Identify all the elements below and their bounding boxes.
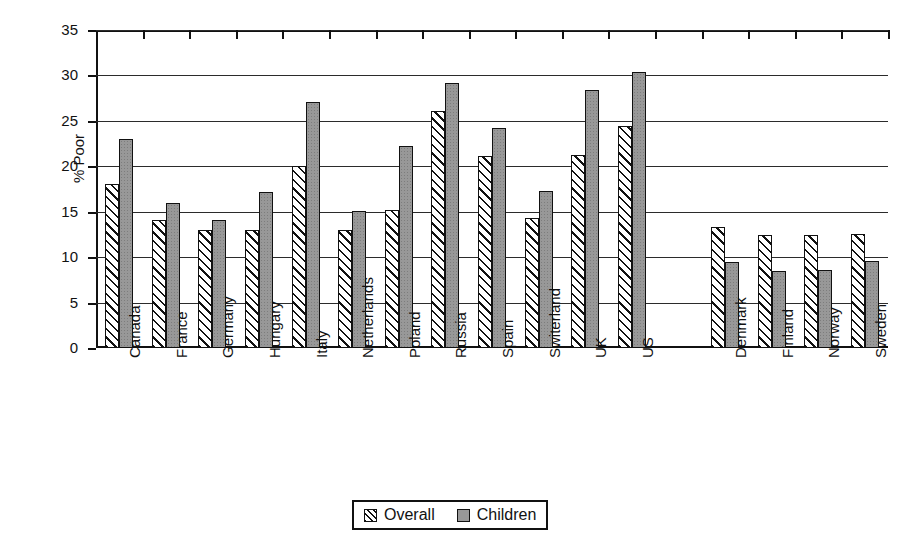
bar-overall	[571, 155, 585, 348]
y-axis-tick	[88, 166, 96, 168]
x-axis-tick-label: Poland	[406, 311, 423, 358]
y-axis-tick-label: 0	[18, 340, 78, 355]
gridline	[96, 30, 888, 31]
y-axis-tick-label: 10	[18, 249, 78, 264]
bar-overall	[245, 230, 259, 348]
x-axis-tick	[422, 30, 424, 39]
bar-overall	[338, 230, 352, 348]
x-axis-tick	[888, 30, 890, 39]
x-axis-tick-label: UK	[592, 337, 609, 358]
gridline	[96, 75, 888, 76]
y-axis-tick	[88, 212, 96, 214]
chart-legend: Overall Children	[352, 500, 548, 530]
bar-overall	[198, 230, 212, 348]
x-axis-tick-label: Russia	[452, 312, 469, 358]
hatched-swatch-icon	[364, 509, 377, 522]
x-axis-tick-label: US	[639, 337, 656, 358]
x-axis-tick-label: Denmark	[732, 297, 749, 358]
bar-children	[492, 128, 506, 348]
x-axis-tick	[282, 30, 284, 39]
x-axis-tick-labels: CanadaFranceGermanyHungaryItalyNetherlan…	[96, 358, 888, 508]
y-axis-tick-label: 30	[18, 67, 78, 82]
x-axis-tick	[702, 30, 704, 39]
y-axis-tick	[88, 30, 96, 32]
legend-item-children: Children	[457, 506, 537, 524]
bar-overall	[804, 235, 818, 348]
x-axis-tick-label: Hungary	[266, 301, 283, 358]
x-axis-tick-label: Netherlands	[359, 277, 376, 358]
bar-overall	[758, 235, 772, 348]
bar-overall	[618, 126, 632, 348]
x-axis-tick	[795, 30, 797, 39]
legend-label-overall: Overall	[384, 506, 435, 524]
bar-overall	[292, 166, 306, 348]
bar-children	[306, 102, 320, 348]
x-axis-tick-label: Germany	[219, 296, 236, 358]
bar-overall	[431, 111, 445, 348]
x-axis-tick	[189, 30, 191, 39]
x-axis-tick-label: Canada	[126, 305, 143, 358]
x-axis-tick	[748, 30, 750, 39]
x-axis-tick-label: Switerland	[546, 288, 563, 358]
legend-label-children: Children	[477, 506, 537, 524]
bar-overall	[152, 220, 166, 348]
x-axis-tick-label: Finland	[779, 309, 796, 358]
legend-item-overall: Overall	[364, 506, 435, 524]
x-axis-tick	[562, 30, 564, 39]
bar-children	[445, 83, 459, 348]
y-axis-tick	[88, 121, 96, 123]
y-axis-tick	[88, 303, 96, 305]
bar-children	[632, 72, 646, 348]
gray-swatch-icon	[457, 509, 470, 522]
bar-overall	[385, 210, 399, 348]
plot-area: 05101520253035 % Poor	[96, 30, 888, 348]
x-axis-tick	[469, 30, 471, 39]
bar-overall	[525, 218, 539, 348]
x-axis-tick	[376, 30, 378, 39]
x-axis-tick-label: Italy	[313, 330, 330, 358]
bar-overall	[851, 234, 865, 348]
x-axis-tick-label: Sweden	[872, 304, 889, 358]
bar-overall	[711, 227, 725, 348]
gridline	[96, 121, 888, 122]
x-axis-tick-label: Spain	[499, 320, 516, 358]
bar-children	[585, 90, 599, 348]
x-axis-tick	[841, 30, 843, 39]
y-axis-tick-label: 5	[18, 295, 78, 310]
x-axis-tick-label: France	[173, 311, 190, 358]
y-axis-title: % Poor	[70, 99, 87, 219]
bar-overall	[478, 156, 492, 348]
bar-overall	[105, 184, 119, 348]
x-axis-tick	[515, 30, 517, 39]
x-axis-tick	[655, 30, 657, 39]
poverty-rate-bar-chart: 05101520253035 % Poor CanadaFranceGerman…	[0, 0, 916, 550]
y-axis-tick-label: 35	[18, 22, 78, 37]
x-axis-tick	[329, 30, 331, 39]
y-axis-tick	[88, 75, 96, 77]
x-axis-tick	[608, 30, 610, 39]
x-axis-tick	[143, 30, 145, 39]
y-axis-tick	[88, 257, 96, 259]
y-axis-tick	[88, 348, 96, 350]
x-axis-tick-label: Norway	[825, 307, 842, 358]
x-axis-tick	[236, 30, 238, 39]
